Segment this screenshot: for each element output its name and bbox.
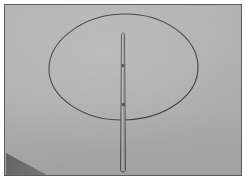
gray-surface bbox=[5, 5, 241, 175]
vertical-rod bbox=[121, 33, 126, 172]
rod-band-mark bbox=[122, 103, 125, 106]
screenshot-root: Overhead photo of a flat gray surface wi… bbox=[0, 0, 246, 180]
rod-band-mark bbox=[122, 64, 125, 67]
photo-frame bbox=[4, 4, 242, 176]
scene-svg bbox=[5, 5, 241, 175]
